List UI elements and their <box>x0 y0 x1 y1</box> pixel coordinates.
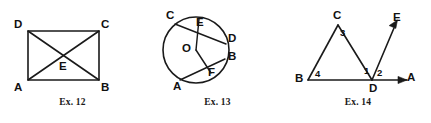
vertex-label-a: A <box>14 82 22 94</box>
vertex-label-b: B <box>228 51 236 63</box>
vertex-label-f: F <box>208 67 215 79</box>
segment-bc <box>308 25 338 80</box>
figure-caption-ex-14: Ex. 14 <box>285 98 431 108</box>
vertex-label-b: B <box>101 82 109 94</box>
vertex-label-e: E <box>393 12 401 24</box>
geometry-figure-sheet: D C A B E Ex. 12 C E D B O F A Ex. 13 <box>0 0 431 123</box>
vertex-label-c: C <box>166 10 174 22</box>
figure-caption-ex-12: Ex. 12 <box>0 98 145 108</box>
figure-ex-14: C E B D A 1 2 3 4 Ex. 14 <box>285 0 431 123</box>
vertex-label-d: D <box>228 33 236 45</box>
vertex-label-b: B <box>295 73 303 85</box>
figure-ex-13: C E D B O F A Ex. 13 <box>145 0 290 123</box>
ray-ba-arrowhead <box>398 76 407 83</box>
vertex-label-o: O <box>182 43 191 55</box>
angle-label-1: 1 <box>364 66 369 76</box>
vertex-label-c: C <box>101 19 109 31</box>
ray-de-line <box>372 28 394 80</box>
vertex-label-d: D <box>14 19 22 31</box>
vertex-label-d: D <box>369 83 377 95</box>
vertex-label-a: A <box>173 81 181 93</box>
figure-ex-12: D C A B E Ex. 12 <box>0 0 145 123</box>
angle-label-3: 3 <box>340 28 345 38</box>
vertex-label-e: E <box>196 17 204 29</box>
chord-ab-through-f <box>180 59 225 80</box>
vertex-label-e: E <box>59 61 67 73</box>
angle-label-2: 2 <box>377 68 382 78</box>
vertex-label-a: A <box>407 72 415 84</box>
angle-label-4: 4 <box>315 69 320 79</box>
figure-caption-ex-13: Ex. 13 <box>145 98 290 108</box>
vertex-label-c: C <box>333 10 341 22</box>
